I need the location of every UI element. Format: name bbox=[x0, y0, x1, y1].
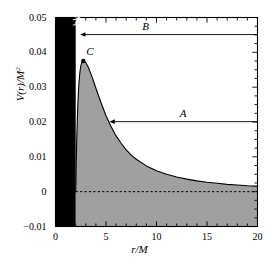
x-axis-tick-label: 0 bbox=[41, 232, 71, 242]
x-axis-tick-label: 5 bbox=[91, 232, 121, 242]
y-axis-title: V(r)/M2 bbox=[14, 24, 27, 144]
y-axis-tick-label: 0.05 bbox=[0, 13, 47, 23]
x-axis-tick-label: 10 bbox=[142, 232, 172, 242]
black-hole-region-label: black hole bbox=[71, 0, 82, 26]
y-axis-tick-label: −0.01 bbox=[0, 222, 47, 232]
y-axis-tick-label: 0 bbox=[0, 187, 47, 197]
point-marker-C bbox=[81, 59, 85, 63]
x-axis-tick-label: 15 bbox=[192, 232, 222, 242]
annotation-label-B: B bbox=[142, 20, 149, 32]
y-axis-title-base: V(r)/M bbox=[14, 71, 26, 102]
annotation-label-C: C bbox=[86, 45, 93, 57]
annotation-label-A: A bbox=[180, 107, 187, 119]
y-axis-title-exponent: 2 bbox=[14, 67, 22, 71]
x-axis-tick-label: 20 bbox=[243, 232, 273, 242]
potential-plot-figure: −0.0100.010.020.030.040.0505101520V(r)/M… bbox=[0, 0, 279, 266]
x-axis-title: r/M bbox=[0, 243, 279, 255]
y-axis-tick-label: 0.01 bbox=[0, 152, 47, 162]
